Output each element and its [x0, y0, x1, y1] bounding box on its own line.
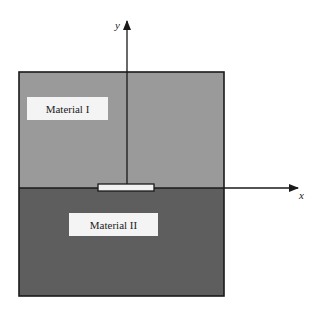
material-2-text: Material II: [90, 219, 137, 231]
diagram-canvas: [0, 0, 321, 317]
material-2-region: [19, 188, 224, 296]
material-2-label: Material II: [69, 213, 158, 236]
x-axis-label: x: [299, 189, 304, 201]
bimaterial-diagram: Material I Material II x y: [0, 0, 321, 317]
material-1-region: [19, 72, 224, 188]
material-1-text: Material I: [46, 103, 90, 115]
y-axis-label: y: [115, 19, 120, 31]
material-1-label: Material I: [27, 97, 108, 120]
interface-crack: [98, 184, 154, 191]
